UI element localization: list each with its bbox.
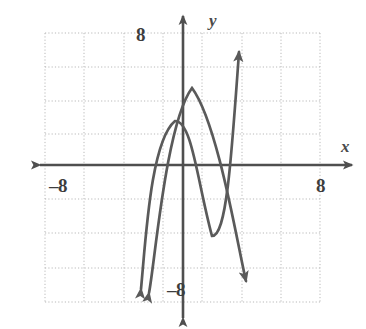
graph-figure: y x 8 –8 –8 8 bbox=[0, 0, 366, 329]
x-axis-tick-negative-8: –8 bbox=[49, 176, 67, 195]
x-axis-label: x bbox=[341, 138, 350, 155]
x-axis-tick-positive-8: 8 bbox=[316, 176, 325, 195]
y-axis-tick-positive-8: 8 bbox=[136, 25, 145, 44]
y-axis-tick-negative-8: –8 bbox=[167, 280, 185, 299]
y-axis-label: y bbox=[209, 12, 217, 29]
parabola-curve bbox=[149, 88, 246, 293]
